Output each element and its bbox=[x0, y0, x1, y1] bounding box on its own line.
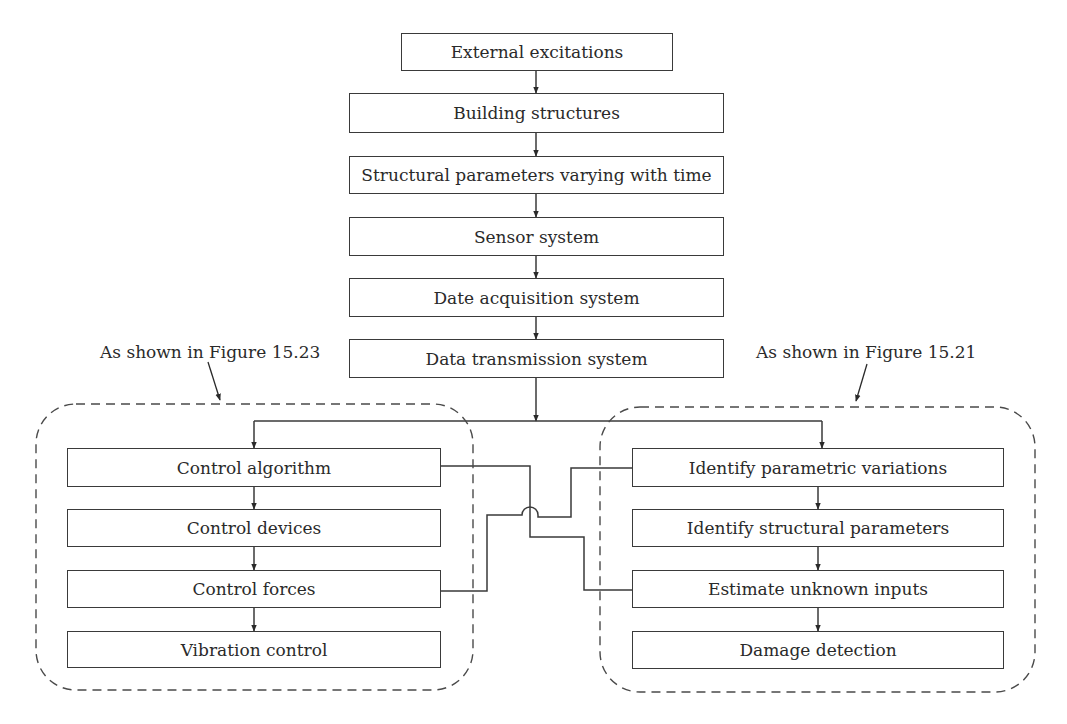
box-label: Structural parameters varying with time bbox=[361, 165, 711, 185]
box-sensor-system: Sensor system bbox=[349, 217, 724, 256]
flowchart-diagram: External excitations Building structures… bbox=[0, 0, 1067, 724]
box-label: Damage detection bbox=[739, 640, 896, 660]
box-label: Estimate unknown inputs bbox=[708, 579, 928, 599]
box-label: Identify structural parameters bbox=[687, 518, 949, 538]
annotation-left: As shown in Figure 15.23 bbox=[100, 342, 320, 362]
box-data-transmission: Data transmission system bbox=[349, 339, 724, 378]
box-label: External excitations bbox=[451, 42, 624, 62]
box-label: Control forces bbox=[192, 579, 315, 599]
box-label: Building structures bbox=[453, 103, 620, 123]
box-identify-parametric-variations: Identify parametric variations bbox=[632, 448, 1004, 487]
box-building-structures: Building structures bbox=[349, 93, 724, 133]
annotation-arrow-right bbox=[856, 364, 867, 401]
box-label: Sensor system bbox=[474, 227, 599, 247]
box-control-algorithm: Control algorithm bbox=[67, 448, 441, 487]
box-data-acquisition: Date acquisition system bbox=[349, 278, 724, 317]
box-control-devices: Control devices bbox=[67, 509, 441, 547]
box-label: Identify parametric variations bbox=[689, 458, 948, 478]
box-label: Vibration control bbox=[181, 640, 328, 660]
box-label: Control algorithm bbox=[177, 458, 331, 478]
box-control-forces: Control forces bbox=[67, 570, 441, 608]
annotation-arrow-left bbox=[208, 362, 220, 400]
box-external-excitations: External excitations bbox=[401, 33, 673, 71]
box-label: Control devices bbox=[187, 518, 322, 538]
box-identify-structural-parameters: Identify structural parameters bbox=[632, 509, 1004, 547]
link-control-algorithm-to-estimate-inputs bbox=[441, 466, 632, 590]
box-damage-detection: Damage detection bbox=[632, 631, 1004, 669]
box-label: Date acquisition system bbox=[433, 288, 639, 308]
link-control-forces-to-identify-parametric bbox=[441, 468, 632, 591]
annotation-right: As shown in Figure 15.21 bbox=[756, 342, 976, 362]
box-label: Data transmission system bbox=[426, 349, 648, 369]
box-vibration-control: Vibration control bbox=[67, 631, 441, 668]
box-structural-parameters: Structural parameters varying with time bbox=[349, 156, 724, 194]
box-estimate-unknown-inputs: Estimate unknown inputs bbox=[632, 570, 1004, 608]
